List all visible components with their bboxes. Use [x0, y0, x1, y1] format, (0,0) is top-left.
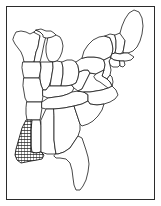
state-shapes [13, 10, 143, 190]
state-mississippi[interactable] [31, 120, 41, 153]
us-eastern-outline-map [0, 0, 161, 206]
state-michigan-lower[interactable] [46, 35, 63, 62]
state-rhode-island[interactable] [120, 61, 125, 67]
map-figure [0, 0, 161, 206]
state-arkansas[interactable] [26, 102, 42, 120]
state-new-york[interactable] [82, 36, 113, 60]
state-missouri[interactable] [23, 78, 43, 102]
state-iowa[interactable] [22, 62, 41, 78]
